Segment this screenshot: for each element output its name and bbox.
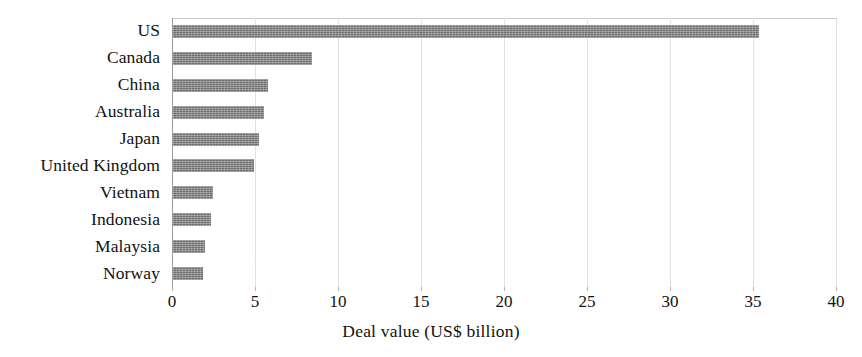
value-axis-tick-label: 20 (496, 292, 513, 312)
gridline (421, 18, 422, 287)
tick-mark (753, 287, 754, 291)
category-axis-label: China (0, 75, 160, 94)
x-axis-title: Deal value (US$ billion) (0, 321, 862, 342)
bar (173, 52, 312, 65)
tick-mark (255, 287, 256, 291)
gridline (670, 18, 671, 287)
gridline (753, 18, 754, 287)
category-axis-labels: USCanadaChinaAustraliaJapanUnited Kingdo… (0, 18, 166, 287)
bar (173, 186, 213, 199)
bar (173, 106, 264, 119)
tick-mark (670, 287, 671, 291)
bar (173, 267, 203, 280)
bar (173, 79, 268, 92)
value-axis-tick-label: 25 (579, 292, 596, 312)
bar (173, 133, 259, 146)
bar (173, 240, 205, 253)
category-axis-label: Japan (0, 129, 160, 148)
tick-mark (504, 287, 505, 291)
category-axis-label: Vietnam (0, 183, 160, 202)
gridline (587, 18, 588, 287)
category-axis-label: Norway (0, 264, 160, 283)
gridline (836, 18, 837, 287)
tick-mark (338, 287, 339, 291)
value-axis-tick-label: 10 (330, 292, 347, 312)
bar (173, 213, 211, 226)
value-axis-tick-label: 40 (828, 292, 845, 312)
tick-mark (172, 287, 173, 291)
gridline (338, 18, 339, 287)
category-axis-label: Canada (0, 48, 160, 67)
value-axis-tick-label: 30 (662, 292, 679, 312)
value-axis-tick-label: 15 (413, 292, 430, 312)
tick-mark (421, 287, 422, 291)
value-axis-tick-label: 0 (168, 292, 177, 312)
tick-mark (836, 287, 837, 291)
horizontal-bar-chart: USCanadaChinaAustraliaJapanUnited Kingdo… (0, 0, 862, 357)
tick-mark (587, 287, 588, 291)
value-axis-tick-label: 35 (745, 292, 762, 312)
bar (173, 25, 759, 38)
category-axis-label: United Kingdom (0, 156, 160, 175)
bar (173, 159, 254, 172)
category-axis-label: Australia (0, 102, 160, 121)
plot-area (172, 18, 836, 287)
category-axis-label: Malaysia (0, 237, 160, 256)
value-axis-tick-label: 5 (251, 292, 260, 312)
gridline (504, 18, 505, 287)
category-axis-label: US (0, 21, 160, 40)
category-axis-label: Indonesia (0, 210, 160, 229)
